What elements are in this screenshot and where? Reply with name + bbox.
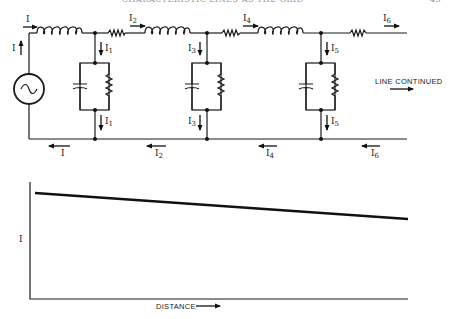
current-label-I6-top: I6 bbox=[383, 14, 391, 25]
inductor-icon bbox=[37, 27, 82, 34]
y-axis bbox=[30, 182, 408, 299]
current-label-I-bottom: I bbox=[61, 149, 65, 160]
x-axis-label: DISTANCE bbox=[156, 302, 196, 311]
running-title: CHARACTERISTIC LINES AS THE GRID bbox=[122, 0, 304, 4]
current-label-I3-lower: I3 bbox=[188, 117, 196, 128]
ac-source-icon bbox=[14, 74, 44, 104]
current-decay-line bbox=[35, 193, 408, 219]
current-label-I2-bottom: I2 bbox=[155, 149, 163, 160]
resistor-icon bbox=[108, 30, 125, 36]
junction-dots bbox=[93, 31, 323, 141]
current-label-I4-bottom: I4 bbox=[266, 149, 274, 160]
current-label-I3-upper: I3 bbox=[188, 44, 196, 55]
resistor-icon bbox=[332, 63, 338, 110]
resistor-icon bbox=[222, 30, 240, 36]
resistor-icon bbox=[350, 30, 366, 36]
inductor-icon bbox=[145, 27, 190, 34]
transmission-line-figure bbox=[0, 0, 457, 319]
current-label-I1-upper: I1 bbox=[105, 44, 113, 55]
source-current-label: I bbox=[12, 44, 16, 53]
current-label-I2-top: I2 bbox=[129, 14, 137, 25]
current-label-I5-upper: I5 bbox=[331, 44, 339, 55]
resistor-icon bbox=[106, 63, 112, 110]
current-label-I4-top: I4 bbox=[243, 14, 251, 25]
resistor-icon bbox=[218, 63, 224, 110]
current-label-I5-lower: I5 bbox=[331, 117, 339, 128]
page-number: 43 bbox=[430, 0, 441, 4]
line-continued-label: LINE CONTINUED bbox=[375, 77, 443, 86]
current-label-I6-bottom: I6 bbox=[371, 149, 379, 160]
current-label-I1-lower: I1 bbox=[105, 117, 113, 128]
inductor-icon bbox=[258, 27, 303, 34]
y-axis-label: I bbox=[19, 235, 23, 244]
current-label-I-top: I bbox=[26, 15, 30, 26]
current-vs-distance-graph bbox=[30, 182, 408, 306]
